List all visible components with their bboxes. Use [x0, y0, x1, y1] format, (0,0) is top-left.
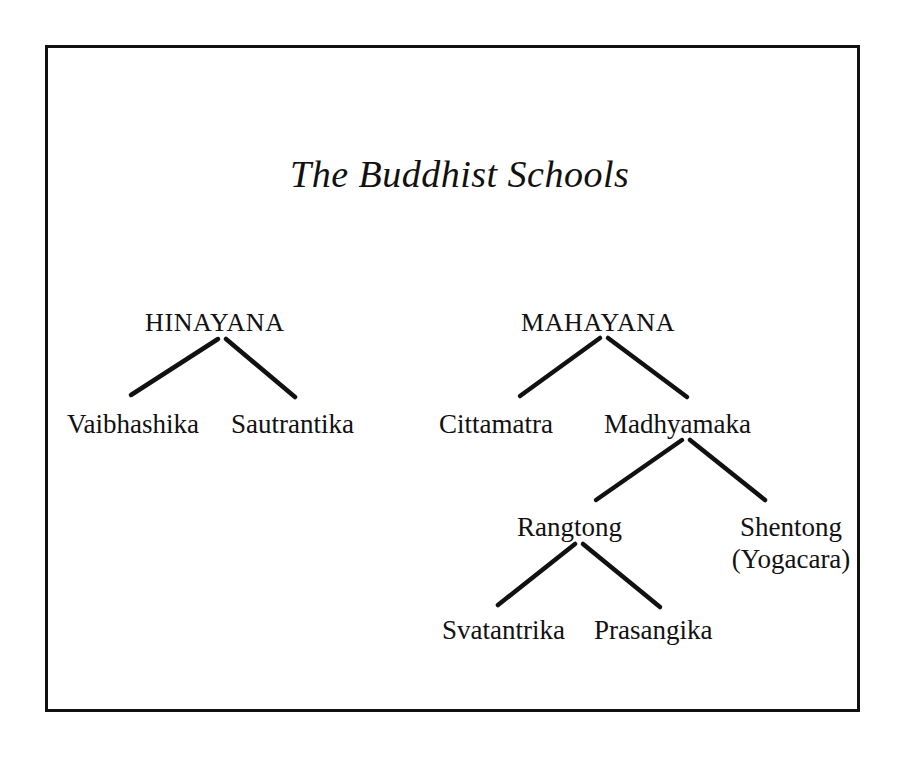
diagram-border-frame	[45, 45, 860, 712]
node-madhyamaka: Madhyamaka	[604, 409, 751, 439]
node-svatantrika: Svatantrika	[442, 615, 565, 645]
node-mahayana: MAHAYANA	[521, 308, 675, 337]
node-hinayana: HINAYANA	[145, 308, 285, 337]
node-sautrantika: Sautrantika	[231, 409, 354, 439]
diagram-title: The Buddhist Schools	[290, 155, 629, 193]
node-prasangika: Prasangika	[594, 615, 712, 645]
node-rangtong: Rangtong	[517, 512, 622, 542]
node-vaibhashika: Vaibhashika	[67, 409, 199, 439]
node-shentong: Shentong (Yogacara)	[721, 512, 861, 576]
diagram-canvas: The Buddhist Schools HINAYANA Vaibhashik…	[0, 0, 907, 766]
node-cittamatra: Cittamatra	[439, 409, 553, 439]
node-shentong-line1: Shentong	[721, 512, 861, 544]
node-shentong-line2: (Yogacara)	[721, 544, 861, 576]
